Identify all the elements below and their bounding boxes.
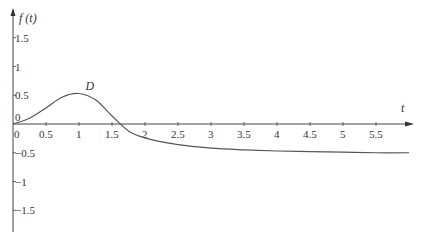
y-tick-label: −1 <box>15 176 27 188</box>
x-tick-label: 2.5 <box>171 128 185 140</box>
x-tick-label: 1.5 <box>105 128 119 140</box>
x-tick-label: 3 <box>208 128 214 140</box>
chart-canvas: 00.511.522.533.544.555.51.510.50−0.5−1−1… <box>0 0 423 247</box>
x-axis-arrow-icon <box>405 122 414 127</box>
x-tick-label: 4 <box>274 128 280 140</box>
x-tick-label: 5.5 <box>369 128 383 140</box>
annotation-d: D <box>85 79 95 93</box>
axes <box>11 8 415 232</box>
x-tick-label: 0.5 <box>39 128 53 140</box>
x-tick-label: 0 <box>14 128 20 140</box>
y-axis-arrow-icon <box>11 8 16 16</box>
x-tick-label: 3.5 <box>237 128 251 140</box>
x-tick-label: 1 <box>76 128 82 140</box>
y-tick-label: 1 <box>15 61 21 73</box>
y-tick-label: 1.5 <box>15 32 29 44</box>
y-axis-label: f (t) <box>19 11 37 25</box>
y-tick-label: 0.5 <box>15 89 29 101</box>
x-axis-label: t <box>401 101 405 115</box>
x-tick-label: 4.5 <box>303 128 317 140</box>
y-tick-label: −1.5 <box>15 204 35 216</box>
y-tick-label: −0.5 <box>15 147 35 159</box>
x-tick-label: 5 <box>340 128 346 140</box>
